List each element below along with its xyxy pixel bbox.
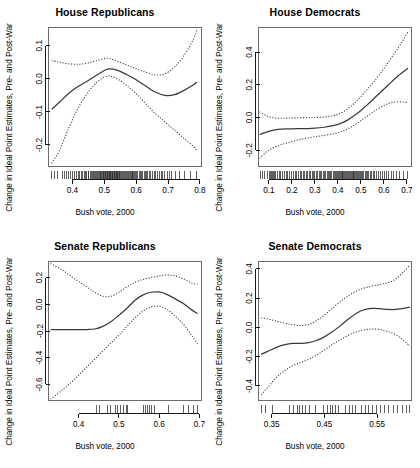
svg-text:0.2: 0.2: [286, 186, 298, 195]
svg-text:0.0: 0.0: [36, 298, 45, 310]
svg-text:-0.2: -0.2: [36, 323, 45, 338]
svg-text:0.3: 0.3: [309, 186, 321, 195]
svg-text:-0.4: -0.4: [246, 378, 255, 393]
svg-text:-0.4: -0.4: [36, 350, 45, 365]
svg-text:0.5: 0.5: [355, 186, 367, 195]
svg-text:0.7: 0.7: [162, 186, 174, 195]
svg-text:0.6: 0.6: [154, 420, 166, 429]
svg-text:0.0: 0.0: [246, 321, 255, 333]
svg-text:0.6: 0.6: [378, 186, 390, 195]
plot-area: 0.20.0-0.2-0.4-0.60.40.50.60.7: [0, 234, 210, 468]
plot-area: 0.40.20.0-0.20.10.20.30.40.50.60.7: [210, 0, 420, 234]
svg-text:0.1: 0.1: [36, 40, 45, 52]
svg-text:0.35: 0.35: [264, 420, 280, 429]
svg-text:-0.6: -0.6: [36, 377, 45, 392]
svg-text:0.6: 0.6: [130, 186, 142, 195]
svg-text:0.8: 0.8: [194, 186, 206, 195]
four-panel-lowess-figure: House Republicans Change in Ideal Point …: [0, 0, 420, 468]
svg-text:0.2: 0.2: [246, 292, 255, 304]
svg-text:0.4: 0.4: [73, 420, 85, 429]
svg-text:-0.2: -0.2: [246, 143, 255, 158]
plot-area: 0.10.0-0.1-0.20.40.50.60.70.8: [0, 0, 210, 234]
svg-text:0.4: 0.4: [67, 186, 79, 195]
svg-text:0.7: 0.7: [194, 420, 206, 429]
svg-text:0.4: 0.4: [332, 186, 344, 195]
svg-text:0.2: 0.2: [36, 271, 45, 283]
svg-text:0.55: 0.55: [369, 420, 385, 429]
svg-text:0.45: 0.45: [316, 420, 332, 429]
svg-text:0.4: 0.4: [246, 263, 255, 275]
svg-text:0.4: 0.4: [246, 46, 255, 58]
panel-senate-republicans: Senate Republicans Change in Ideal Point…: [0, 234, 210, 468]
panel-house-republicans: House Republicans Change in Ideal Point …: [0, 0, 210, 234]
svg-text:0.5: 0.5: [99, 186, 111, 195]
svg-text:-0.1: -0.1: [36, 104, 45, 119]
svg-text:0.1: 0.1: [263, 186, 275, 195]
svg-text:0.2: 0.2: [246, 79, 255, 91]
plot-area: 0.40.20.0-0.2-0.40.350.450.55: [210, 234, 420, 468]
svg-text:0.0: 0.0: [36, 73, 45, 85]
svg-text:0.0: 0.0: [246, 111, 255, 123]
svg-text:-0.2: -0.2: [246, 349, 255, 364]
svg-text:0.7: 0.7: [401, 186, 413, 195]
svg-text:-0.2: -0.2: [36, 137, 45, 152]
svg-text:0.5: 0.5: [113, 420, 125, 429]
panel-senate-democrats: Senate Democrats Change in Ideal Point E…: [210, 234, 420, 468]
panel-house-democrats: House Democrats Change in Ideal Point Es…: [210, 0, 420, 234]
